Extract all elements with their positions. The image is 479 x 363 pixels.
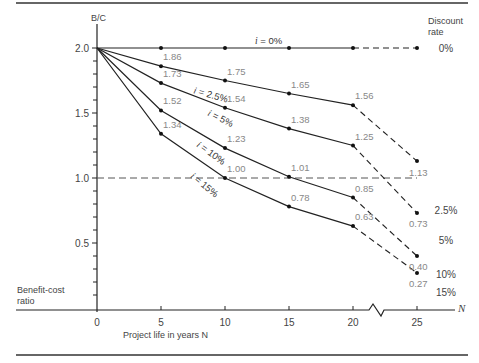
curve-labels: i = 0%i = 2.5%i = 5%i = 10%i = 15% (189, 35, 283, 200)
series-line-dashed (353, 146, 417, 214)
data-point (415, 211, 419, 215)
legend-entry: 0% (439, 43, 454, 54)
data-point (287, 175, 291, 179)
data-point (415, 159, 419, 163)
y-tick-label: 0.5 (75, 238, 89, 249)
legend-entry: 5% (439, 235, 454, 246)
x-tick-label: 25 (411, 317, 423, 328)
legend-entry: 15% (436, 287, 456, 298)
data-point-label: 1.25 (355, 131, 374, 142)
series-line-dashed (353, 198, 417, 257)
data-point (351, 144, 355, 148)
data-point-label: 1.01 (291, 162, 310, 173)
legend-entry: 10% (436, 269, 456, 280)
data-point (159, 81, 163, 85)
data-point (287, 92, 291, 96)
data-point-label: 1.38 (291, 114, 310, 125)
legend-title: Discount rate (428, 16, 470, 38)
data-point-label: 0.27 (409, 278, 428, 289)
data-point-label: 1.56 (355, 90, 374, 101)
curve-label: i = 10% (195, 139, 228, 167)
x-tick-label: 5 (158, 317, 164, 328)
benefit-cost-chart: 0.51.01.52.0 0510152025 1.861.751.651.56… (0, 0, 479, 363)
x-axis (16, 304, 455, 316)
data-point (159, 46, 163, 50)
data-point-label: 0.63 (355, 211, 374, 222)
x-tick-label: 15 (283, 317, 295, 328)
data-point (159, 132, 163, 136)
data-points (159, 46, 419, 275)
data-point-label: 1.75 (227, 66, 246, 77)
x-tick-label: 0 (94, 317, 100, 328)
x-tick-label: 20 (347, 317, 359, 328)
data-point (415, 254, 419, 258)
series-lines (97, 48, 417, 273)
data-point-label: 0.78 (291, 192, 310, 203)
data-point-label: 1.23 (227, 133, 246, 144)
curve-label: i = 15% (189, 170, 221, 200)
x-axis-label: Project life in years N (123, 330, 208, 341)
legend-entry: 2.5% (435, 205, 458, 216)
data-point (223, 176, 227, 180)
legend-labels: 0%2.5%5%10%15% (435, 43, 458, 298)
data-point-label: 0.40 (409, 261, 428, 272)
x-axis-ticks: 0510152025 (94, 306, 423, 328)
series-line-dashed (353, 226, 417, 273)
data-point (287, 46, 291, 50)
y-axis-description: Benefit-cost ratio (17, 285, 77, 307)
data-point (287, 127, 291, 131)
curve-label: i = 0% (255, 35, 283, 46)
y-tick-label: 1.0 (75, 173, 89, 184)
data-point-label: 0.85 (355, 183, 374, 194)
data-point (287, 205, 291, 209)
y-tick-label: 1.5 (75, 108, 89, 119)
data-point-label: 1.52 (163, 95, 182, 106)
data-point-label: 1.73 (163, 68, 182, 79)
data-point-label: 1.54 (227, 93, 246, 104)
data-point (223, 79, 227, 83)
data-point-label: 1.00 (227, 163, 246, 174)
data-point (159, 108, 163, 112)
data-point-label: 1.86 (163, 51, 182, 62)
x-tick-label: 10 (219, 317, 231, 328)
data-point (351, 224, 355, 228)
y-axis-title: B/C (91, 13, 106, 24)
data-point (351, 46, 355, 50)
data-point (223, 46, 227, 50)
x-axis-end-label: N (458, 303, 465, 314)
data-point (223, 146, 227, 150)
data-point (351, 196, 355, 200)
data-point-label: 0.73 (409, 218, 428, 229)
data-point (415, 46, 419, 50)
data-point-label: 1.65 (291, 79, 310, 90)
data-point (223, 106, 227, 110)
series-line-solid (97, 48, 353, 226)
y-tick-label: 2.0 (75, 43, 89, 54)
data-point-label: 1.34 (163, 119, 182, 130)
data-point-label: 1.13 (409, 167, 428, 178)
curve-label: i = 2.5% (192, 84, 229, 104)
y-axis-ticks: 0.51.01.52.0 (75, 43, 97, 296)
data-point (351, 103, 355, 107)
